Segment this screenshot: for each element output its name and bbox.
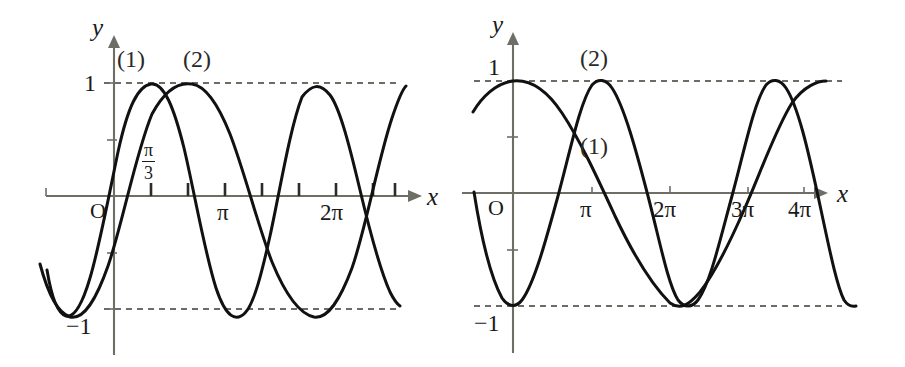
fraction-bar (142, 161, 155, 162)
right-x-tick-label-4pi: 4π (788, 198, 811, 221)
right-x-tick-label-2pi: 2π (653, 198, 676, 221)
left-y-axis-label: y (92, 15, 103, 40)
figure-page: y x 1 −1 O π 2π π 3 (1) (2) (0, 0, 905, 367)
left-x-axis-label: x (427, 184, 438, 209)
right-y-tick-label-1: 1 (488, 55, 500, 79)
right-x-axis-label: x (837, 181, 848, 206)
left-curve-tag-1: (1) (117, 47, 145, 71)
right-curve-tag-1: (1) (580, 134, 608, 158)
right-x-tick-label-3pi: 3π (731, 198, 754, 221)
right-curve-tag-2: (2) (580, 46, 608, 70)
figure-right: y x 1 −1 O π 2π 3π 4π (1) (2) (452, 0, 905, 367)
left-x-tick-label-2pi: 2π (320, 201, 343, 224)
left-origin-label: O (90, 200, 106, 222)
y-axis-arrowhead (507, 32, 519, 45)
fraction-numerator: π (142, 141, 155, 161)
left-curve-tag-2: (2) (183, 47, 211, 71)
fraction-denominator: 3 (142, 163, 155, 183)
left-x-tick-label-pi: π (217, 201, 229, 224)
x-axis-arrowhead (408, 190, 422, 202)
right-y-tick-label-neg1: −1 (474, 311, 500, 335)
right-x-tick-label-pi: π (580, 198, 592, 221)
right-origin-label: O (488, 197, 504, 219)
right-y-axis-label: y (492, 12, 503, 37)
left-y-tick-label-neg1: −1 (66, 314, 92, 338)
figure-left: y x 1 −1 O π 2π π 3 (1) (2) (0, 0, 452, 367)
left-x-tick-label-pi-over-3: π 3 (142, 141, 155, 183)
left-y-tick-label-1: 1 (84, 71, 96, 95)
left-plot-svg (0, 0, 452, 367)
